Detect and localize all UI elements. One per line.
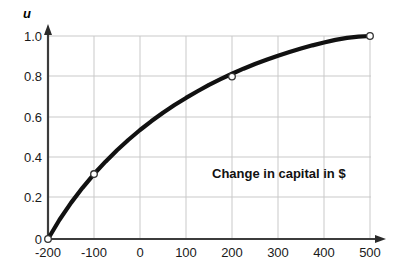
x-tick-label-0: 0 bbox=[136, 245, 143, 260]
x-tick-label--100: -100 bbox=[81, 245, 107, 260]
y-tick-label-0.8: 0.8 bbox=[24, 69, 42, 84]
x-tick-label--200: -200 bbox=[35, 245, 61, 260]
x-tick-label-100: 100 bbox=[175, 245, 197, 260]
y-tick-label-1.0: 1.0 bbox=[24, 29, 42, 44]
y-tick-label-0.2: 0.2 bbox=[24, 190, 42, 205]
utility-function-chart: 1.0 0.8 0.6 0.4 0.2 0 -200 -100 0 100 20… bbox=[0, 0, 397, 268]
chart-annotation-label: Change in capital in $ bbox=[212, 166, 346, 181]
marker-mid-low bbox=[91, 171, 98, 178]
x-tick-label-400: 400 bbox=[313, 245, 335, 260]
chart-container: 1.0 0.8 0.6 0.4 0.2 0 -200 -100 0 100 20… bbox=[0, 0, 397, 268]
marker-end bbox=[367, 33, 374, 40]
x-tick-label-300: 300 bbox=[267, 245, 289, 260]
x-tick-label-200: 200 bbox=[221, 245, 243, 260]
x-tick-label-500: 500 bbox=[359, 245, 381, 260]
y-axis-title: u bbox=[23, 6, 31, 21]
y-tick-label-0.6: 0.6 bbox=[24, 110, 42, 125]
marker-start bbox=[45, 236, 52, 243]
marker-mid-high bbox=[229, 73, 236, 80]
y-tick-label-0.4: 0.4 bbox=[24, 150, 42, 165]
